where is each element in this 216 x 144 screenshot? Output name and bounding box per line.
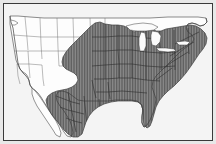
lake-ontario [176, 41, 190, 45]
range-map-figure: North America (contiguous United States … [0, 0, 216, 144]
lake-michigan [139, 32, 146, 51]
map-frame: North America (contiguous United States … [3, 3, 213, 141]
north-america-range-map [4, 4, 212, 140]
